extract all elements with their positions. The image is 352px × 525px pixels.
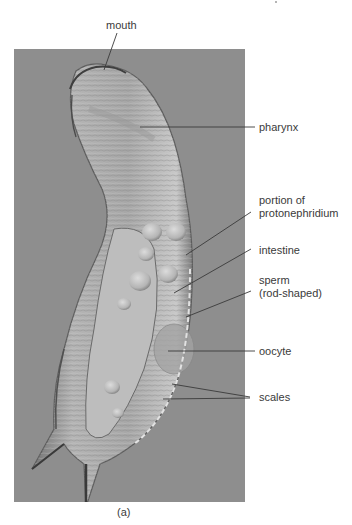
figure: mouth pharynx portion of protonephridium…: [0, 0, 352, 525]
label-oocyte: oocyte: [259, 345, 291, 358]
organism-illustration: [14, 49, 245, 502]
label-sperm-line2: (rod-shaped): [259, 287, 322, 300]
label-protonephridium-line2: protonephridium: [259, 207, 339, 220]
label-scales: scales: [259, 391, 290, 404]
print-speck: [275, 1, 277, 3]
label-protonephridium-line1: portion of: [259, 194, 305, 207]
panel-caption: (a): [117, 506, 130, 518]
micrograph-photo: [14, 49, 245, 502]
label-sperm-line1: sperm: [259, 274, 290, 287]
label-intestine: intestine: [259, 244, 300, 257]
label-mouth: mouth: [106, 19, 137, 32]
label-pharynx: pharynx: [259, 121, 298, 134]
